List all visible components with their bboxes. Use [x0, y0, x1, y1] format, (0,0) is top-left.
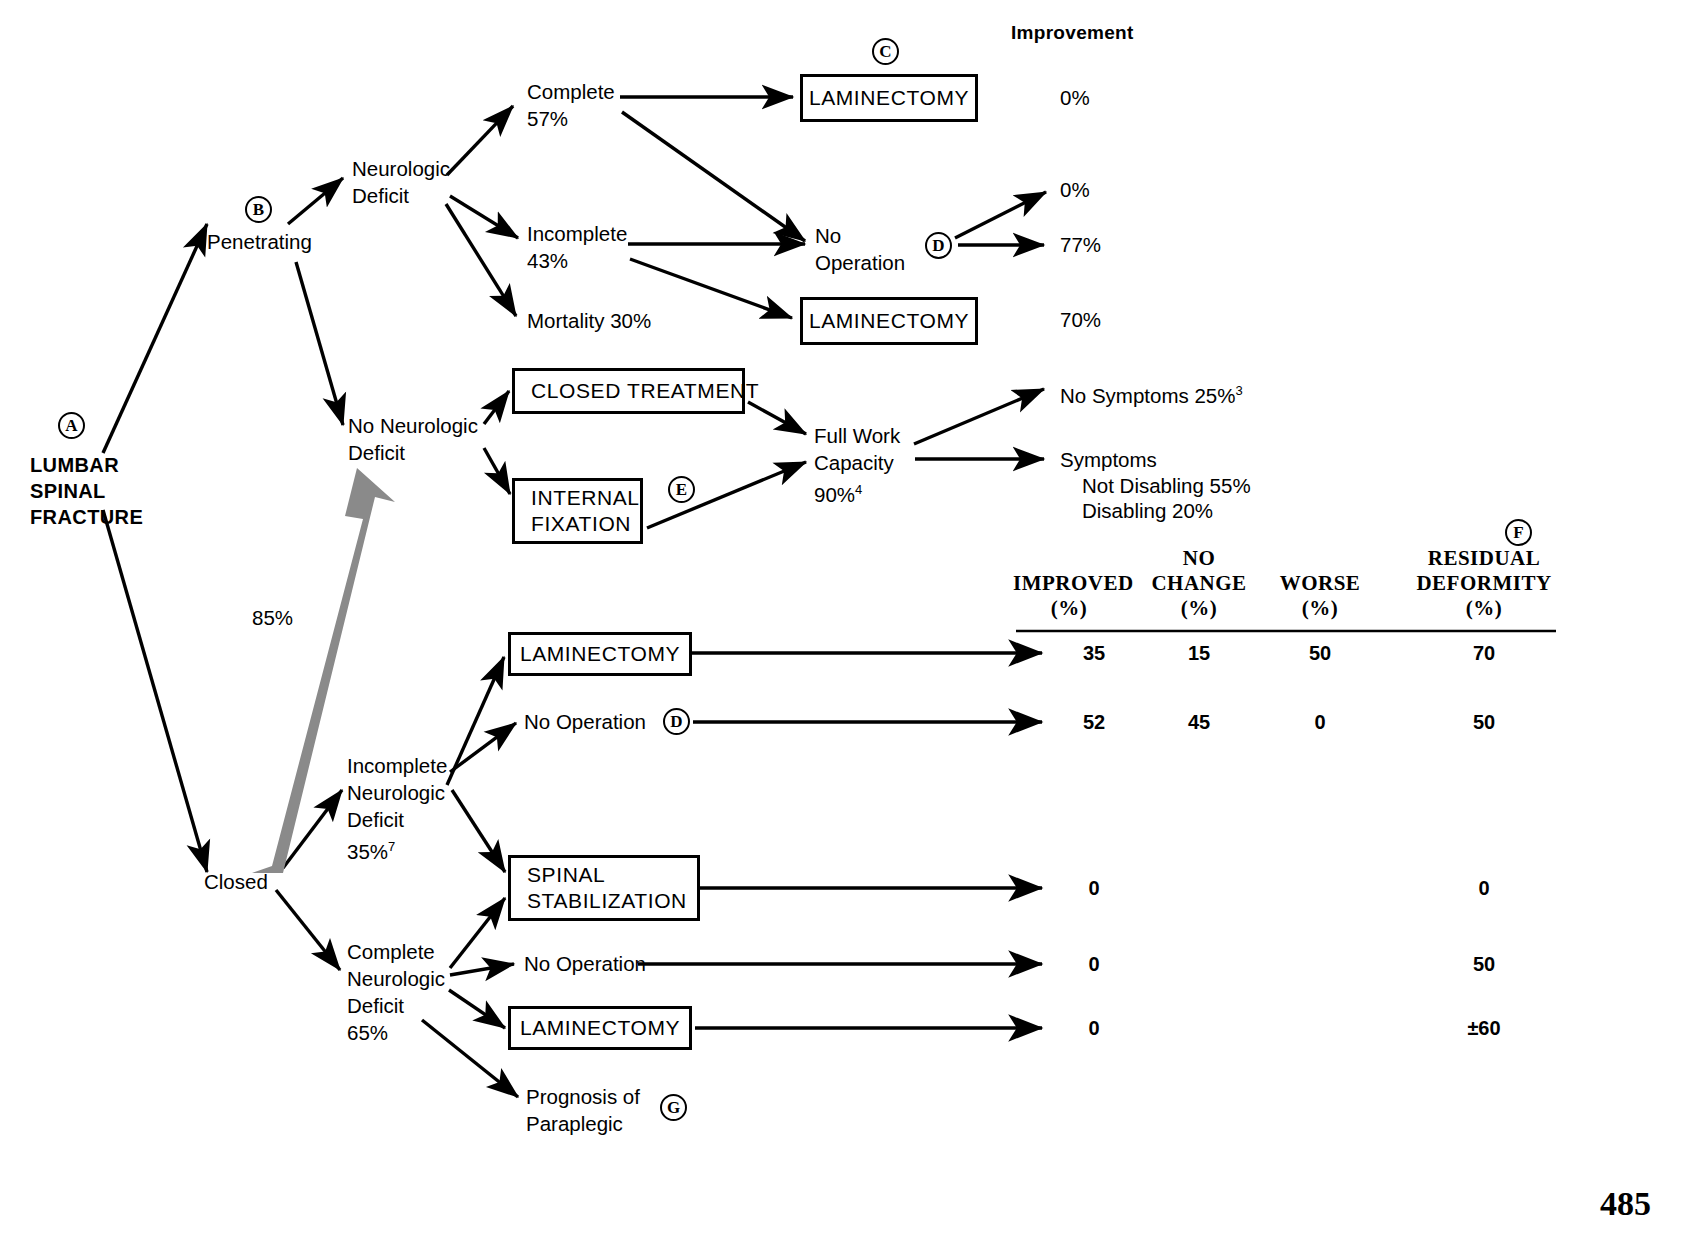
table-header-no-change-unit: (%) [1148, 596, 1250, 621]
marker-g-icon: G [660, 1094, 687, 1121]
node-no-symptoms: No Symptoms 25%3 [1060, 377, 1243, 409]
node-closed: Closed [204, 868, 268, 895]
table-row: 0 [1059, 877, 1129, 900]
node-complete-57: Complete 57% [527, 78, 615, 132]
marker-d-icon-penetrating: D [925, 232, 952, 259]
decision-tree-page: Improvement A LUMBAR SPINAL FRACTURE B P… [0, 0, 1696, 1253]
improvement-laminectomy-top: 0% [1060, 86, 1090, 110]
table-row: 50 [1449, 953, 1519, 976]
table-row: 52 [1059, 711, 1129, 734]
table-row: 70 [1449, 642, 1519, 665]
node-no-operation-complete: No Operation [524, 950, 646, 977]
node-symptoms-not-disabling: Not Disabling 55% [1082, 472, 1251, 499]
node-no-neurologic-deficit: No Neurologic Deficit [348, 412, 478, 466]
table-header-improved: IMPROVED (%) [1013, 571, 1125, 621]
improvement-no-operation-lower: 77% [1060, 233, 1101, 257]
table-header-residual-deformity: RESIDUAL DEFORMITY (%) [1402, 546, 1566, 621]
incomplete-deficit-text: Incomplete Neurologic Deficit 35% [347, 754, 447, 863]
table-row: 50 [1285, 642, 1355, 665]
table-row: 0 [1449, 877, 1519, 900]
table-header-no-change: NO CHANGE (%) [1148, 546, 1250, 621]
table-header-no-change-title: NO CHANGE [1148, 546, 1250, 596]
table-header-improved-title: IMPROVED [1013, 571, 1125, 596]
table-row: 45 [1164, 711, 1234, 734]
node-no-operation-penetrating: No Operation [815, 222, 905, 276]
node-full-work-capacity: Full Work Capacity 90%4 [814, 422, 900, 508]
node-symptoms-disabling: Disabling 20% [1082, 497, 1213, 524]
grey-arrow-label: 85% [252, 604, 293, 631]
node-incomplete-neurologic-deficit: Incomplete Neurologic Deficit 35%7 [347, 752, 447, 865]
box-laminectomy-penetrating-incomplete[interactable]: LAMINECTOMY [800, 297, 978, 345]
marker-d-icon-closed: D [663, 708, 690, 735]
node-no-operation-incomplete: No Operation [524, 708, 646, 735]
table-row: 0 [1059, 953, 1129, 976]
table-row: ±60 [1449, 1017, 1519, 1040]
marker-f-icon: F [1505, 519, 1532, 546]
marker-c-icon: C [872, 38, 899, 65]
node-penetrating: Penetrating [207, 228, 312, 255]
table-header-residual-deformity-unit: (%) [1402, 596, 1566, 621]
table-header-worse-unit: (%) [1274, 596, 1366, 621]
full-work-capacity-superscript: 4 [855, 482, 862, 497]
node-incomplete-43: Incomplete 43% [527, 220, 627, 274]
table-header-residual-deformity-title: RESIDUAL DEFORMITY [1402, 546, 1566, 596]
table-row: 0 [1059, 1017, 1129, 1040]
marker-a-icon: A [58, 412, 85, 439]
box-laminectomy-closed-complete[interactable]: LAMINECTOMY [508, 1006, 692, 1050]
table-row: 0 [1285, 711, 1355, 734]
box-spinal-stabilization[interactable]: SPINAL STABILIZATION [508, 855, 700, 921]
page-number: 485 [1600, 1185, 1651, 1223]
box-closed-treatment[interactable]: CLOSED TREATMENT [512, 368, 745, 414]
marker-b-icon: B [245, 196, 272, 223]
incomplete-deficit-superscript: 7 [388, 839, 395, 854]
node-complete-neurologic-deficit: Complete Neurologic Deficit 65% [347, 938, 445, 1046]
node-prognosis-paraplegic: Prognosis of Paraplegic [526, 1083, 640, 1137]
node-neurologic-deficit: Neurologic Deficit [352, 155, 450, 209]
improvement-header: Improvement [1011, 22, 1134, 44]
box-laminectomy-closed-incomplete[interactable]: LAMINECTOMY [508, 632, 692, 676]
no-symptoms-superscript: 3 [1235, 383, 1242, 398]
improvement-laminectomy-mid: 70% [1060, 308, 1101, 332]
node-symptoms: Symptoms [1060, 446, 1157, 473]
table-row: 15 [1164, 642, 1234, 665]
table-header-worse-title: WORSE [1274, 571, 1366, 596]
box-internal-fixation[interactable]: INTERNAL FIXATION [512, 478, 643, 544]
no-symptoms-text: No Symptoms 25% [1060, 384, 1235, 407]
table-header-worse: WORSE (%) [1274, 571, 1366, 621]
root-label: LUMBAR SPINAL FRACTURE [30, 452, 143, 530]
marker-e-icon: E [668, 476, 695, 503]
table-header-improved-unit: (%) [1013, 596, 1125, 621]
improvement-no-operation-upper: 0% [1060, 178, 1090, 202]
table-row: 35 [1059, 642, 1129, 665]
node-mortality-30: Mortality 30% [527, 307, 651, 334]
box-laminectomy-penetrating-complete[interactable]: LAMINECTOMY [800, 74, 978, 122]
table-row: 50 [1449, 711, 1519, 734]
